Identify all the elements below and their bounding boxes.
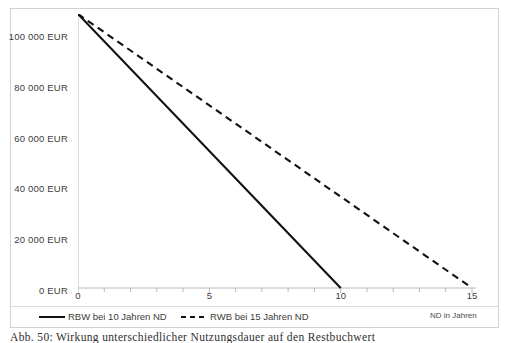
series-line-rwb-15 [78, 14, 472, 288]
y-tick-label-20000: 20 000 EUR [14, 234, 68, 245]
figure-caption: Abb. 50: Wirkung unterschiedlicher Nutzu… [10, 331, 506, 343]
x-tick-label-5: 5 [207, 290, 212, 301]
x-tick-label-0: 0 [75, 290, 80, 301]
legend-swatch-solid-icon [39, 312, 65, 322]
y-tick-label-0: 0 EUR [39, 285, 68, 296]
x-tick-label-15: 15 [467, 290, 478, 301]
legend-swatch-dashed-icon [181, 312, 207, 322]
y-tick-label-60000: 60 000 EUR [14, 132, 68, 143]
series-line-rbw-10 [78, 14, 341, 288]
legend-label-rbw-10: RBW bei 10 Jahren ND [68, 311, 167, 322]
chart-legend: RBW bei 10 Jahren ND RWB bei 15 Jahren N… [11, 306, 498, 327]
legend-label-rwb-15: RWB bei 15 Jahren ND [210, 311, 309, 322]
y-tick-label-80000: 80 000 EUR [14, 81, 68, 92]
legend-entry-rwb-15: RWB bei 15 Jahren ND [181, 311, 309, 322]
figure-container: 100 000 EUR 80 000 EUR 60 000 EUR 40 000… [0, 0, 510, 343]
x-axis-labels: 0 5 10 15 [78, 290, 478, 306]
x-tick-label-10: 10 [335, 290, 346, 301]
y-tick-label-40000: 40 000 EUR [14, 183, 68, 194]
y-tick-label-100000: 100 000 EUR [9, 31, 68, 42]
plot-area [78, 14, 472, 288]
y-axis-labels: 100 000 EUR 80 000 EUR 60 000 EUR 40 000… [10, 8, 68, 328]
legend-entry-rbw-10: RBW bei 10 Jahren ND [39, 311, 167, 322]
plot-svg [78, 14, 478, 298]
